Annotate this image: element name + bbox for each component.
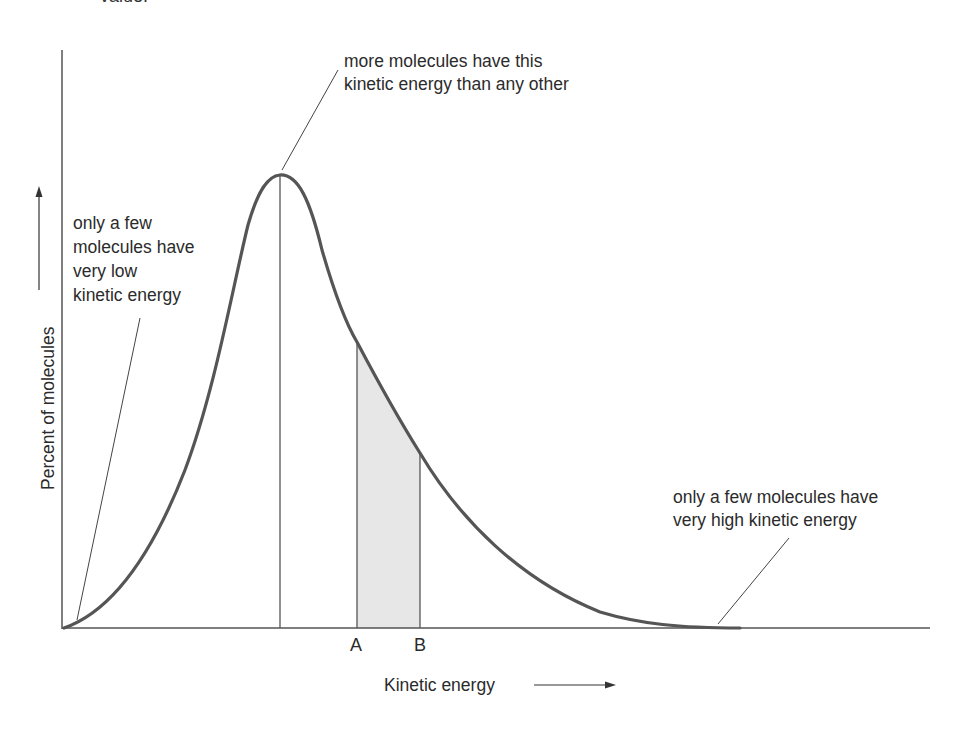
y-axis-label: Percent of molecules (38, 327, 59, 490)
peak-leader-line (282, 70, 338, 170)
tick-label-a: A (350, 635, 362, 656)
peak-annotation: more molecules have this kinetic energy … (344, 50, 569, 96)
high-energy-annotation: only a few molecules have very high kine… (673, 486, 878, 532)
shaded-region-a-b (357, 342, 420, 628)
x-axis-label: Kinetic energy (384, 674, 495, 697)
y-arrow-head-icon (36, 186, 43, 197)
low-energy-annotation: only a few molecules have very low kinet… (73, 211, 195, 307)
distribution-figure (0, 0, 970, 732)
high-leader-line (718, 538, 789, 624)
x-arrow-head-icon (605, 682, 616, 689)
tick-label-b: B (414, 635, 426, 656)
